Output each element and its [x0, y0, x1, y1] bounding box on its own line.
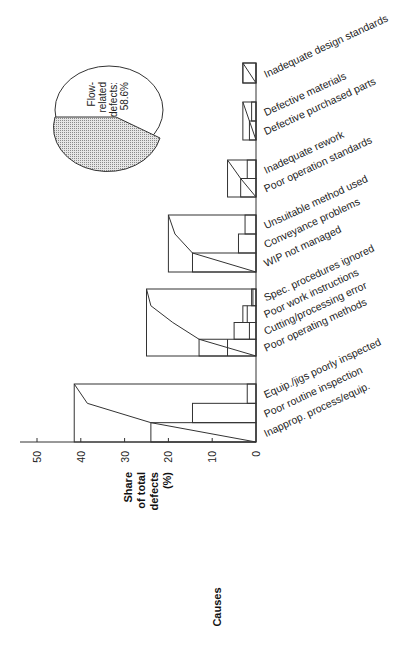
value-axis-title: (%): [161, 472, 173, 489]
pareto-chart: 01020304050 Inapprop. process/equip.Poor…: [0, 0, 399, 656]
cause-bar: [252, 289, 256, 306]
bar-group: [147, 289, 257, 356]
value-axis-title: Share: [122, 472, 134, 503]
pie-annotation: 58.6%: [119, 82, 130, 110]
cause-label: Inadequate design standards: [262, 12, 390, 80]
pie-annotation: defects:: [108, 82, 119, 117]
tick-label: 40: [75, 451, 87, 463]
axis-titles: Shareof totaldefects(%)Causes: [122, 472, 223, 627]
bar-group: [243, 102, 256, 140]
cause-bar: [238, 234, 256, 253]
tick-label: 30: [119, 451, 131, 463]
tick-label: 10: [206, 451, 218, 463]
group-total-frame: [168, 215, 256, 272]
value-axis-title: defects: [148, 472, 160, 511]
pie-annotation: related: [97, 82, 108, 113]
cause-bar: [243, 306, 256, 323]
cumulative-line: [168, 215, 256, 272]
group-total-frame: [74, 384, 256, 442]
tick-label: 0: [250, 451, 262, 457]
category-labels: Inapprop. process/equip.Poor routine ins…: [262, 12, 390, 439]
causes-axis-title: Causes: [211, 587, 223, 626]
cumulative-line: [74, 384, 256, 442]
cause-bar: [192, 403, 256, 422]
cause-bar: [252, 102, 256, 121]
tick-label: 50: [31, 451, 43, 463]
bar-group: [228, 160, 256, 197]
cause-bar: [245, 215, 256, 234]
inset-pie-chart: Flow-relateddefects:58.6%: [53, 66, 163, 172]
bar-group: [74, 384, 256, 442]
pie-annotation: Flow-: [86, 82, 97, 106]
value-axis-title: of total: [135, 472, 147, 509]
cause-bar: [247, 384, 256, 403]
bar-group: [168, 215, 256, 272]
bar-group: [243, 63, 256, 83]
cause-bar: [247, 160, 256, 179]
cumulative-line: [243, 63, 256, 83]
tick-label: 20: [162, 451, 174, 463]
cause-bar: [234, 323, 256, 340]
